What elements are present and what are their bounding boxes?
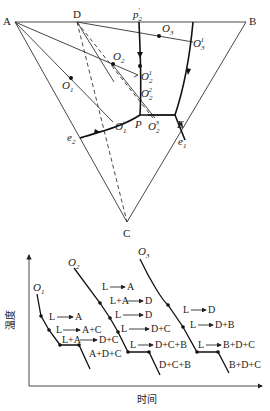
svg-text:D+B: D+B — [215, 319, 235, 330]
svg-text:D+C: D+C — [151, 323, 171, 334]
label-B: B — [249, 15, 256, 27]
label-O3: O3 — [162, 22, 174, 37]
label-e1: e1 — [178, 135, 186, 150]
svg-text:L: L — [183, 304, 189, 315]
svg-text:D+C+B: D+C+B — [159, 359, 191, 370]
svg-text:L: L — [130, 339, 136, 350]
label-curve-O3: O3 — [138, 245, 150, 260]
x-axis-label: 时间 — [137, 393, 157, 405]
svg-text:L: L — [115, 309, 121, 320]
label-C: C — [123, 227, 130, 239]
phase-diagram-figure: A B C D p2′ O3 O31 O2 O1 O21 O22 O1′ P O… — [0, 0, 270, 411]
svg-text:B+D+C: B+D+C — [229, 359, 261, 370]
dot-O2 — [111, 62, 115, 66]
label-O2-3: O23 — [148, 119, 160, 135]
label-curve-O1: O1 — [33, 281, 44, 296]
svg-text:A+D+C: A+D+C — [89, 348, 122, 359]
svg-text:L+A: L+A — [110, 295, 130, 306]
svg-text:L: L — [198, 339, 204, 350]
label-O1-prime: O1′ — [115, 119, 126, 135]
svg-text:D+C: D+C — [99, 334, 119, 345]
label-E: E — [176, 118, 184, 130]
line-D-E — [77, 22, 114, 82]
svg-text:D: D — [145, 309, 152, 320]
svg-text:D: D — [208, 304, 215, 315]
svg-text:D+C+B: D+C+B — [155, 339, 187, 350]
svg-text:B+D+C: B+D+C — [223, 339, 255, 350]
svg-text:L: L — [102, 281, 108, 292]
label-P: P — [134, 118, 142, 130]
label-A: A — [3, 15, 11, 27]
cooling-curves-chart: 温度 时间 O1 L A L A+C L+A D+C A+D+C O2 L A … — [4, 245, 262, 405]
ternary-diagram — [15, 22, 246, 222]
label-O3-1: O31 — [193, 36, 205, 52]
svg-text:A: A — [75, 311, 83, 322]
label-e2: e2 — [67, 131, 76, 146]
svg-text:L+A: L+A — [62, 334, 82, 345]
y-axis-label: 温度 — [4, 310, 16, 330]
label-O1: O1 — [62, 79, 73, 94]
label-O2-2: O22 — [141, 86, 153, 102]
svg-text:A: A — [127, 281, 135, 292]
cooling-curve-O3 — [140, 259, 229, 373]
dot-O3 — [157, 34, 161, 38]
svg-text:L: L — [49, 311, 55, 322]
label-p2prime: p2′ — [132, 6, 143, 23]
label-D: D — [73, 8, 81, 20]
dot-O2-1 — [138, 64, 142, 68]
line-A-O2-1 — [15, 22, 138, 75]
svg-text:L: L — [190, 319, 196, 330]
edge-BC — [127, 22, 246, 222]
label-O2-1: O21 — [141, 69, 153, 85]
curve-O3-E — [175, 22, 193, 115]
line-D-O3-1 — [77, 22, 193, 42]
svg-text:D: D — [145, 295, 152, 306]
edge-AC — [15, 22, 127, 222]
svg-text:L: L — [121, 323, 127, 334]
label-O2: O2 — [113, 50, 125, 65]
